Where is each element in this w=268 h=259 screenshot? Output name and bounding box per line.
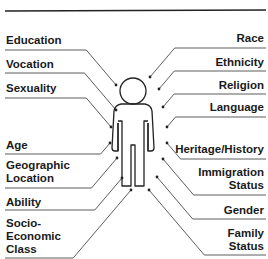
leader-dot-family-status (148, 189, 151, 192)
label-education: Education (6, 34, 62, 47)
leader-dot-ability (121, 177, 124, 180)
label-immigration-status: Immigration Status (198, 166, 264, 192)
label-family-status: Family Status (228, 227, 264, 253)
label-socio-economic-class: Socio- Economic Class (6, 217, 61, 256)
leader-dot-socio-economic-class (130, 189, 133, 192)
leader-dot-heritage-history (166, 142, 169, 145)
leader-dot-vocation (115, 109, 118, 112)
leader-dot-sexuality (110, 126, 113, 129)
leader-dot-ethnicity (158, 88, 161, 91)
leader-dot-immigration-status (162, 158, 165, 161)
leader-dot-education (115, 84, 118, 87)
top-rule (5, 10, 266, 11)
leader-dot-geographic-location (116, 157, 119, 160)
person-figure-icon (112, 78, 154, 186)
leader-dot-age (109, 142, 112, 145)
label-ethnicity: Ethnicity (215, 56, 264, 69)
leader-dot-race (149, 76, 152, 79)
leader-dot-language (166, 126, 169, 129)
leader-line-language (167, 117, 266, 127)
label-religion: Religion (219, 79, 264, 92)
label-race: Race (237, 32, 265, 45)
leader-dot-gender (156, 176, 159, 179)
label-ability: Ability (6, 196, 41, 209)
label-heritage-history: Heritage/History (175, 143, 264, 156)
label-geographic-location: Geographic Location (6, 159, 70, 185)
leader-dot-religion (162, 106, 165, 109)
leader-line-sexuality (5, 98, 111, 127)
label-language: Language (210, 101, 264, 114)
label-vocation: Vocation (6, 58, 54, 71)
label-gender: Gender (224, 204, 264, 217)
label-sexuality: Sexuality (6, 82, 57, 95)
label-age: Age (6, 139, 28, 152)
